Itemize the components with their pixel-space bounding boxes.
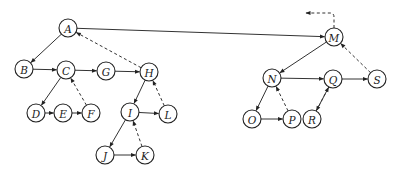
node-label: N xyxy=(266,73,277,85)
node-label: J xyxy=(101,150,108,162)
edge-C-D xyxy=(41,77,60,105)
node-label: A xyxy=(63,23,72,35)
node-L: L xyxy=(159,105,177,123)
nodes-layer: ABCGHDEFILJKMNQSOPR xyxy=(15,19,386,164)
node-M: M xyxy=(325,28,343,46)
node-R: R xyxy=(303,110,321,128)
node-I: I xyxy=(121,103,139,121)
node-label: D xyxy=(31,108,41,120)
edge-A-M xyxy=(77,28,325,36)
edge-I-L xyxy=(139,112,159,113)
thread-edge-S-M xyxy=(341,44,371,73)
node-Q: Q xyxy=(324,70,342,88)
node-A: A xyxy=(59,19,77,37)
edge-M-N xyxy=(280,42,327,73)
node-label: S xyxy=(373,74,380,86)
node-C: C xyxy=(57,61,75,79)
edge-H-I xyxy=(134,80,145,103)
node-label: G xyxy=(102,66,110,78)
node-label: C xyxy=(62,65,70,77)
node-G: G xyxy=(97,62,115,80)
edge-N-O xyxy=(256,86,268,110)
node-N: N xyxy=(263,69,281,87)
edge-C-G xyxy=(75,70,97,71)
node-F: F xyxy=(82,104,100,122)
node-label: L xyxy=(164,109,172,121)
edge-I-J xyxy=(110,120,126,147)
edge-N-Q xyxy=(281,78,324,79)
node-label: F xyxy=(86,108,95,120)
edge-B-C xyxy=(33,69,57,70)
node-label: P xyxy=(287,114,296,126)
node-E: E xyxy=(54,104,72,122)
edges-layer xyxy=(31,13,371,155)
node-label: I xyxy=(127,107,133,119)
edge-A-B xyxy=(31,34,61,62)
root-thread-arrow xyxy=(306,13,334,28)
node-label: K xyxy=(140,150,150,162)
node-O: O xyxy=(243,110,261,128)
node-S: S xyxy=(368,70,386,88)
node-label: B xyxy=(19,64,28,76)
node-K: K xyxy=(136,146,154,164)
node-H: H xyxy=(140,63,158,81)
thread-edge-L-H xyxy=(153,81,164,106)
node-label: R xyxy=(307,114,316,126)
node-B: B xyxy=(15,60,33,78)
node-label: M xyxy=(328,32,340,44)
node-label: H xyxy=(143,67,154,79)
edge-G-H xyxy=(115,71,140,72)
node-D: D xyxy=(27,104,45,122)
node-P: P xyxy=(283,110,301,128)
node-J: J xyxy=(96,146,114,164)
thread-edge-P-N xyxy=(276,87,288,111)
diagram-canvas: ABCGHDEFILJKMNQSOPR xyxy=(0,0,397,176)
node-label: E xyxy=(58,108,67,120)
thread-edge-K-I xyxy=(133,121,142,147)
thread-edge-F-C xyxy=(71,78,87,105)
node-label: Q xyxy=(329,74,338,87)
node-label: O xyxy=(248,114,257,126)
